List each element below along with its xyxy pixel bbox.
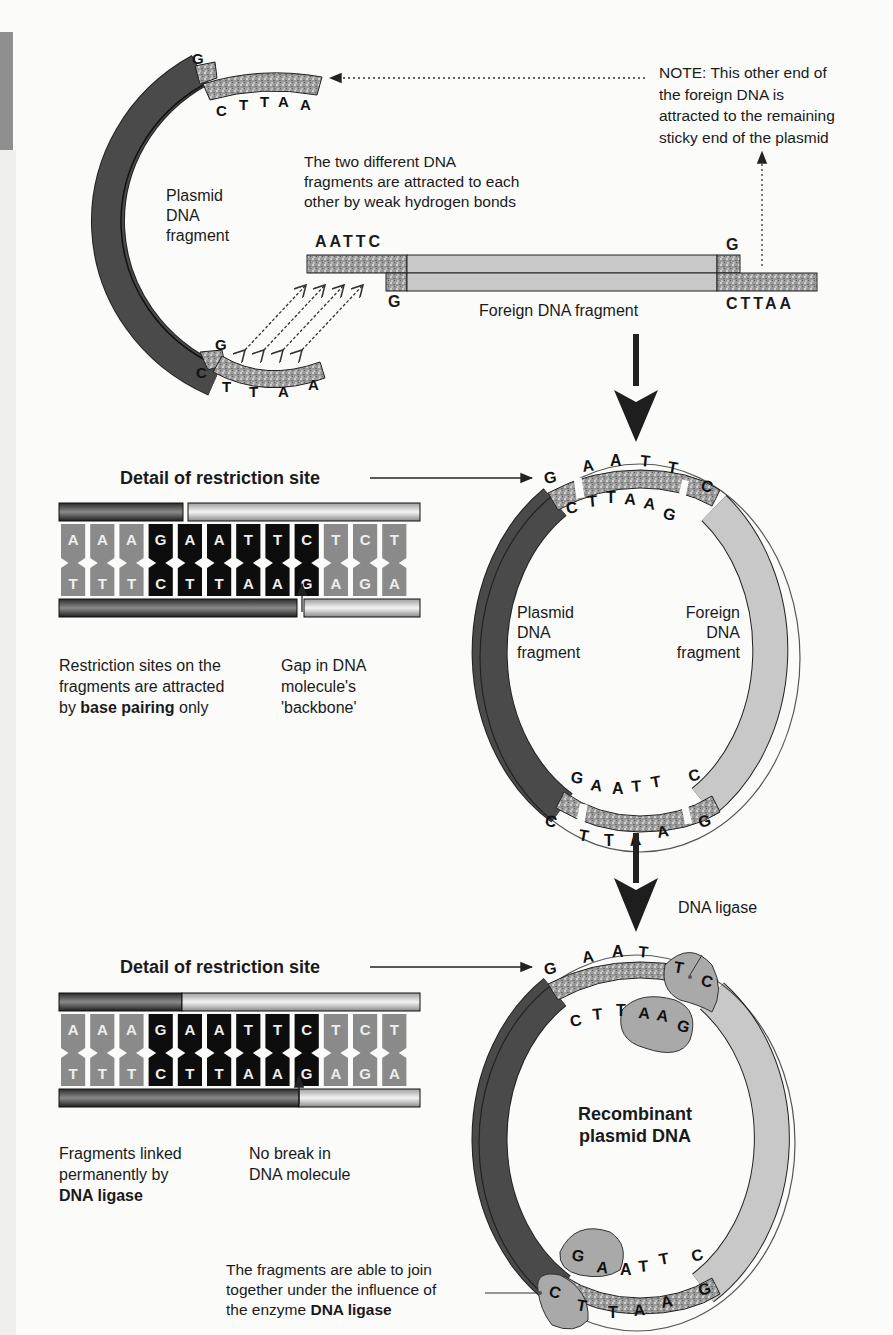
svg-text:T: T <box>616 1002 626 1019</box>
svg-text:C: C <box>155 575 166 592</box>
svg-text:T: T <box>185 1065 194 1082</box>
svg-text:T: T <box>185 575 194 592</box>
svg-text:T: T <box>592 1005 603 1023</box>
svg-text:T: T <box>273 531 282 548</box>
svg-text:G: G <box>661 504 677 524</box>
svg-text:T: T <box>390 531 399 548</box>
svg-text:T: T <box>608 1304 618 1321</box>
svg-text:G: G <box>155 1021 167 1038</box>
svg-text:G: G <box>301 1065 313 1082</box>
svg-text:A: A <box>184 1021 195 1038</box>
svg-text:T: T <box>638 1257 649 1275</box>
svg-text:A: A <box>214 531 225 548</box>
svg-text:T: T <box>650 772 663 790</box>
svg-text:T: T <box>390 1021 399 1038</box>
svg-text:A: A <box>620 1261 632 1278</box>
foreign-right-bottom-bases: CTTAA <box>726 294 794 314</box>
svg-text:A: A <box>389 575 400 592</box>
restriction-site-ladder-ligated: ATATATGCATATTATACGTACGTA <box>59 993 420 1107</box>
svg-text:G: G <box>359 1065 371 1082</box>
svg-text:T: T <box>249 383 258 400</box>
recombinant-plasmid-label: Recombinantplasmid DNA <box>555 1103 715 1147</box>
svg-text:C: C <box>360 531 371 548</box>
detail-title-2: Detail of restriction site <box>120 957 320 977</box>
svg-text:A: A <box>581 456 595 475</box>
svg-text:G: G <box>215 336 227 353</box>
svg-text:T: T <box>98 575 107 592</box>
hydrogen-bond-note: The two different DNAfragments are attra… <box>304 152 519 212</box>
svg-text:A: A <box>184 531 195 548</box>
svg-text:G: G <box>192 50 204 67</box>
svg-text:A: A <box>68 531 79 548</box>
svg-text:A: A <box>590 776 604 795</box>
foreign-fragment-label: Foreign DNA fragment <box>479 301 638 321</box>
svg-text:T: T <box>69 1065 78 1082</box>
stage1-plasmid-label: PlasmidDNAfragment <box>166 186 229 246</box>
svg-text:T: T <box>69 575 78 592</box>
svg-text:C: C <box>301 1021 312 1038</box>
svg-text:C: C <box>569 1011 584 1030</box>
svg-text:A: A <box>308 376 319 393</box>
svg-text:T: T <box>638 943 649 961</box>
svg-text:T: T <box>244 531 253 548</box>
svg-text:T: T <box>606 489 616 506</box>
svg-text:T: T <box>658 1249 671 1267</box>
svg-text:A: A <box>612 943 624 960</box>
svg-text:T: T <box>273 1021 282 1038</box>
svg-text:A: A <box>68 1021 79 1038</box>
svg-text:A: A <box>330 1065 341 1082</box>
dna-ligase-label: DNA ligase <box>678 898 757 918</box>
svg-text:A: A <box>638 1004 651 1022</box>
svg-text:G: G <box>155 531 167 548</box>
svg-text:A: A <box>272 575 283 592</box>
stage1-foreign-fragment <box>307 255 817 291</box>
svg-text:T: T <box>331 531 340 548</box>
svg-text:T: T <box>640 452 651 470</box>
detail-title-1: Detail of restriction site <box>120 468 320 488</box>
svg-text:A: A <box>624 490 637 508</box>
stage2-foreign-label: ForeignDNAfragment <box>660 603 740 663</box>
svg-text:A: A <box>612 780 624 797</box>
gap-caption: Gap in DNAmolecule's'backbone' <box>281 655 366 718</box>
svg-text:C: C <box>686 765 702 785</box>
svg-text:A: A <box>126 531 137 548</box>
svg-text:T: T <box>604 832 614 849</box>
svg-text:T: T <box>239 96 248 113</box>
svg-text:G: G <box>543 959 558 978</box>
svg-text:A: A <box>642 494 657 513</box>
svg-text:T: T <box>260 93 269 110</box>
svg-text:T: T <box>587 492 598 510</box>
svg-text:C: C <box>216 102 227 119</box>
svg-text:G: G <box>359 575 371 592</box>
svg-text:A: A <box>243 1065 254 1082</box>
ligase-link-caption: Fragments linkedpermanently byDNA ligase <box>59 1143 182 1206</box>
svg-text:A: A <box>633 1301 646 1319</box>
svg-text:G: G <box>543 468 558 487</box>
foreign-left-bottom-base: G <box>388 292 400 312</box>
stage2-plasmid-label: PlasmidDNAfragment <box>517 603 580 663</box>
svg-text:A: A <box>272 1065 283 1082</box>
svg-text:A: A <box>214 1021 225 1038</box>
base-pairing-caption: Restriction sites on the fragments are a… <box>59 655 224 718</box>
svg-text:C: C <box>301 531 312 548</box>
svg-text:C: C <box>155 1065 166 1082</box>
svg-text:T: T <box>244 1021 253 1038</box>
big-down-arrow-1 <box>614 334 658 442</box>
svg-text:T: T <box>631 777 642 795</box>
svg-text:C: C <box>360 1021 371 1038</box>
svg-text:T: T <box>215 575 224 592</box>
svg-text:A: A <box>97 1021 108 1038</box>
svg-text:A: A <box>389 1065 400 1082</box>
svg-text:A: A <box>330 575 341 592</box>
svg-text:A: A <box>610 452 622 469</box>
foreign-end-note: NOTE: This other end ofthe foreign DNA i… <box>659 62 835 148</box>
restriction-site-ladder-gapped: ATATATGCATATTATACGTACGTA <box>59 503 420 617</box>
foreign-right-top-base: G <box>726 235 738 255</box>
svg-text:T: T <box>127 575 136 592</box>
svg-text:A: A <box>278 383 289 400</box>
svg-text:T: T <box>215 1065 224 1082</box>
hydrogen-bond-arrows <box>245 285 363 350</box>
svg-text:G: G <box>569 768 584 787</box>
svg-text:T: T <box>222 378 231 395</box>
svg-text:T: T <box>98 1065 107 1082</box>
